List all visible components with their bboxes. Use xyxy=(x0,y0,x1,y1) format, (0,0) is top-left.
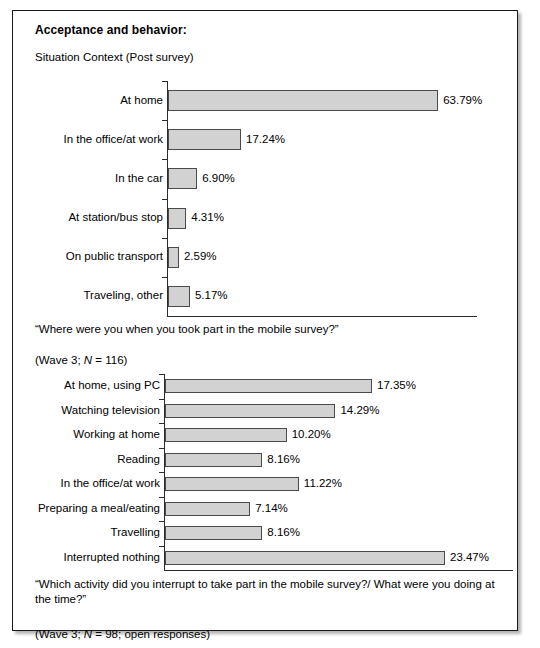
chart-1-y-axis xyxy=(167,81,168,316)
chart-tick xyxy=(159,546,164,547)
category-label: At station/bus stop xyxy=(23,212,163,224)
category-label: Traveling, other xyxy=(23,290,163,302)
chart-tick xyxy=(162,120,167,121)
category-label: At home, using PC xyxy=(20,380,160,392)
bar xyxy=(168,247,179,268)
bar-value-label: 5.17% xyxy=(195,290,228,302)
chart-2-baseline xyxy=(164,570,513,571)
bar xyxy=(168,168,197,189)
chart-situation-context: At home63.79%In the office/at work17.24%… xyxy=(167,81,487,316)
bar-value-label: 63.79% xyxy=(443,95,482,107)
chart-tick xyxy=(159,423,164,424)
category-label: Reading xyxy=(20,454,160,466)
chart-tick xyxy=(162,81,167,82)
bar-value-label: 8.16% xyxy=(267,454,300,466)
chart-1-caption-wave: (Wave 3; N = 116) xyxy=(35,338,127,368)
chart-2-caption-question: “Which activity did you interrupt to tak… xyxy=(35,577,507,607)
bar-value-label: 14.29% xyxy=(340,405,379,417)
chart-tick xyxy=(159,521,164,522)
chart-tick xyxy=(159,472,164,473)
bar-value-label: 6.90% xyxy=(202,173,235,185)
category-label: In the car xyxy=(23,173,163,185)
chart-1-wave-post: = 116) xyxy=(92,354,127,366)
chart-tick xyxy=(162,199,167,200)
bar-value-label: 17.24% xyxy=(246,134,285,146)
chart-tick xyxy=(162,159,167,160)
chart-1-caption-question: “Where were you when you took part in th… xyxy=(35,322,505,337)
chart-tick xyxy=(159,448,164,449)
category-label: Interrupted nothing xyxy=(20,552,160,564)
chart-1-subtitle: Situation Context (Post survey) xyxy=(35,51,194,63)
chart-1-baseline xyxy=(167,316,477,317)
bar-value-label: 7.14% xyxy=(255,503,288,515)
bar xyxy=(165,551,445,565)
bar-value-label: 23.47% xyxy=(450,552,489,564)
bar-value-label: 4.31% xyxy=(191,212,224,224)
chart-tick xyxy=(159,497,164,498)
chart-tick xyxy=(159,399,164,400)
bar xyxy=(165,379,372,393)
category-label: Travelling xyxy=(20,527,160,539)
bar xyxy=(165,428,287,442)
chart-1-wave-n: N xyxy=(84,354,92,366)
bar xyxy=(168,286,190,307)
category-label: On public transport xyxy=(23,251,163,263)
bar xyxy=(168,90,438,111)
bar xyxy=(165,502,250,516)
chart-tick xyxy=(162,238,167,239)
bar-value-label: 10.20% xyxy=(292,429,331,441)
bar-value-label: 11.22% xyxy=(304,478,342,490)
category-label: Working at home xyxy=(20,429,160,441)
bar xyxy=(168,129,241,150)
bar xyxy=(168,208,186,229)
bar xyxy=(165,526,262,540)
chart-tick xyxy=(159,374,164,375)
bar-value-label: 2.59% xyxy=(184,251,217,263)
category-label: In the office/at work xyxy=(23,134,163,146)
bar xyxy=(165,477,299,491)
figure-panel: Acceptance and behavior: Situation Conte… xyxy=(12,10,518,631)
chart-2-wave-pre: (Wave 3; xyxy=(35,628,84,640)
chart-1-wave-pre: (Wave 3; xyxy=(35,354,84,366)
chart-interrupted-activity: At home, using PC17.35%Watching televisi… xyxy=(164,374,514,570)
category-label: At home xyxy=(23,95,163,107)
bar xyxy=(165,404,335,418)
chart-2-caption-wave: (Wave 3; N = 98; open responses) xyxy=(35,612,210,642)
chart-2-wave-n: N xyxy=(84,628,92,640)
page-title: Acceptance and behavior: xyxy=(35,23,187,37)
category-label: Watching television xyxy=(20,405,160,417)
bar xyxy=(165,453,262,467)
bar-value-label: 8.16% xyxy=(267,527,300,539)
category-label: In the office/at work xyxy=(20,478,160,490)
category-label: Preparing a meal/eating xyxy=(20,503,160,515)
chart-tick xyxy=(162,277,167,278)
chart-2-wave-post: = 98; open responses) xyxy=(92,628,210,640)
bar-value-label: 17.35% xyxy=(377,380,416,392)
